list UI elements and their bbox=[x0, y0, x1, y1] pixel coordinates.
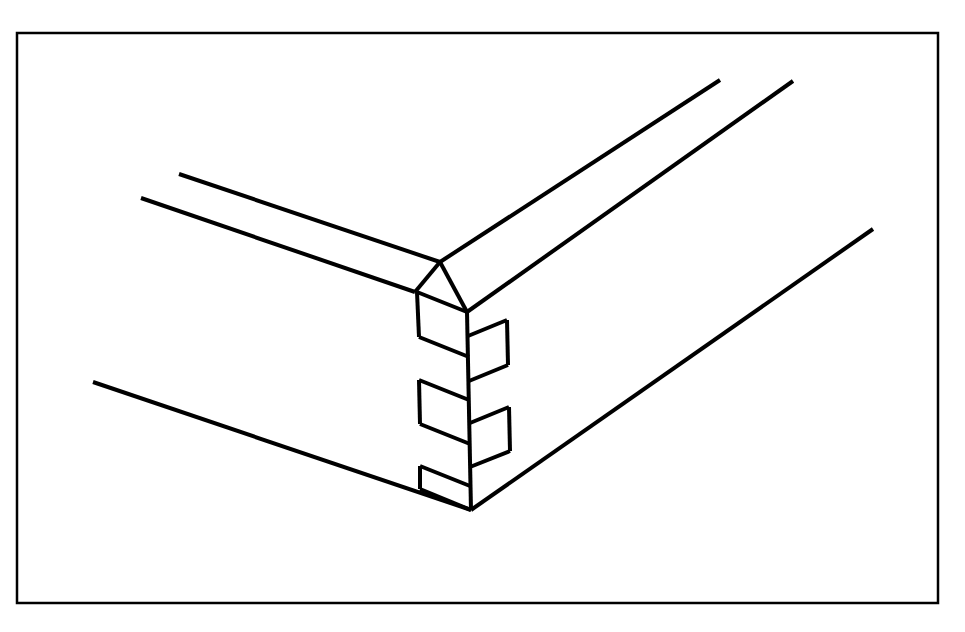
right-arm-upper-edge bbox=[440, 80, 720, 262]
finger-left-3-bottom-edge bbox=[420, 489, 471, 510]
bottom-left-edge bbox=[93, 382, 471, 510]
finger-right-2-side-edge bbox=[509, 407, 510, 451]
finger-left-1-bottom-edge bbox=[419, 337, 469, 357]
joint-linework bbox=[93, 80, 873, 510]
finger-left-2-top-edge bbox=[419, 380, 469, 400]
figure-root bbox=[0, 0, 965, 632]
finger-right-1-bottom-edge bbox=[469, 365, 508, 381]
finger-left-2-bottom-edge bbox=[420, 424, 470, 444]
drawing-border-rect bbox=[17, 33, 938, 603]
finger-right-1-side-edge bbox=[507, 320, 508, 365]
left-arm-lower-edge bbox=[141, 198, 415, 292]
finger-joint-drawing bbox=[0, 0, 965, 632]
right-arm-mid-edge bbox=[467, 81, 793, 312]
left-arm-upper-edge bbox=[179, 174, 440, 262]
right-arm-lower-edge bbox=[471, 229, 873, 510]
left-arm-corner-short-edge bbox=[415, 262, 440, 292]
finger-left-3-top-edge bbox=[420, 466, 470, 486]
corner-vertical-edge bbox=[467, 312, 471, 510]
finger-left-2-side-edge bbox=[419, 380, 420, 424]
finger-right-2-top-edge bbox=[470, 407, 509, 423]
finger-right-1-top-edge bbox=[468, 320, 507, 336]
finger-left-1-side-edge bbox=[417, 292, 419, 337]
finger-right-2-bottom-edge bbox=[470, 451, 510, 467]
